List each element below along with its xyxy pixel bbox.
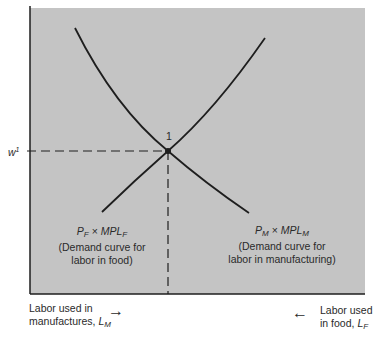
manufacturing-curve-formula: PM × MPLM <box>222 224 342 240</box>
labor-allocation-diagram <box>0 0 377 341</box>
left-arrow-icon: ← <box>292 306 308 319</box>
manufacturing-curve-label: PM × MPLM (Demand curve for labor in man… <box>222 224 342 266</box>
food-curve-formula: PF × MPLF <box>52 225 152 241</box>
right-arrow-icon: → <box>108 304 124 317</box>
x-axis-left-label: Labor used in manufactures, LM <box>29 302 111 331</box>
wage-label: w1 <box>8 143 20 159</box>
equilibrium-label: 1 <box>166 130 172 143</box>
x-axis-right-label: Labor used in food, LF <box>320 304 373 333</box>
food-curve-label: PF × MPLF (Demand curve for labor in foo… <box>52 225 152 267</box>
equilibrium-point <box>165 148 171 154</box>
